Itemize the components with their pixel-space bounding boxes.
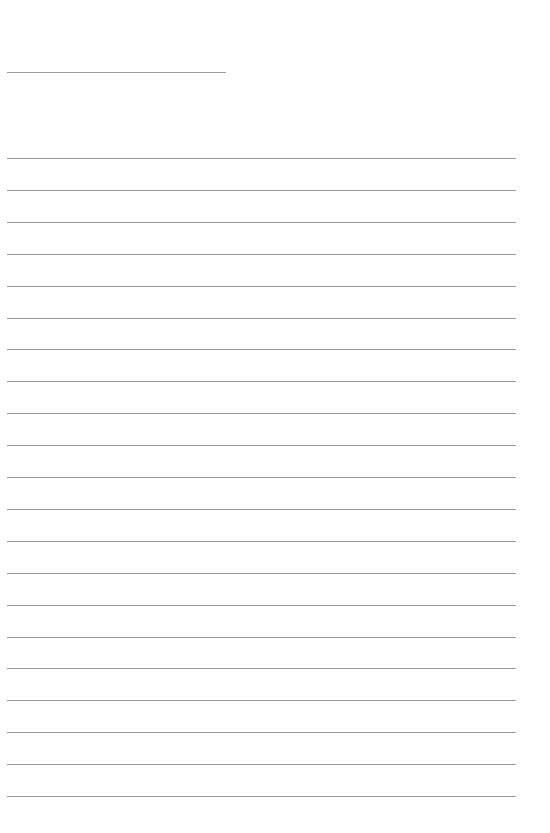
ruled-line <box>7 477 516 478</box>
ruled-line <box>7 668 516 669</box>
ruled-line <box>7 413 516 414</box>
title-line <box>7 72 226 73</box>
ruled-line <box>7 445 516 446</box>
ruled-line <box>7 796 516 797</box>
ruled-line <box>7 732 516 733</box>
ruled-line <box>7 381 516 382</box>
ruled-line <box>7 541 516 542</box>
ruled-line <box>7 605 516 606</box>
ruled-line <box>7 509 516 510</box>
ruled-line <box>7 222 516 223</box>
ruled-line <box>7 349 516 350</box>
ruled-line <box>7 190 516 191</box>
ruled-line <box>7 158 516 159</box>
ruled-line <box>7 637 516 638</box>
ruled-line <box>7 573 516 574</box>
ruled-line <box>7 254 516 255</box>
ruled-line <box>7 700 516 701</box>
ruled-line <box>7 286 516 287</box>
ruled-line <box>7 318 516 319</box>
ruled-line <box>7 764 516 765</box>
